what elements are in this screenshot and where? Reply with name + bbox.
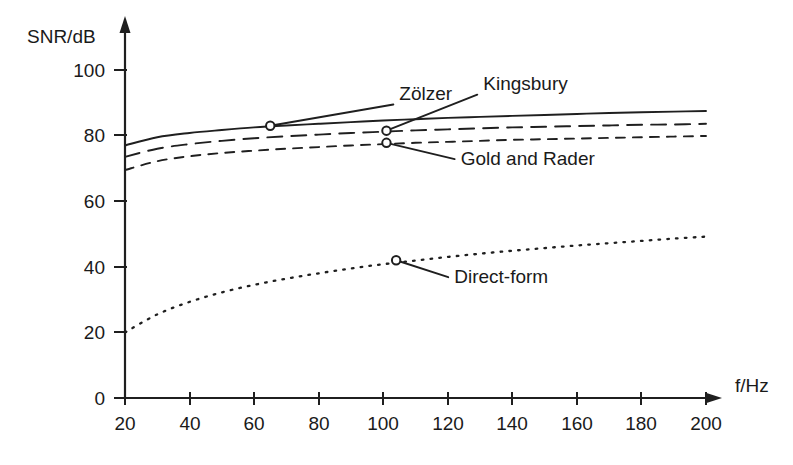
y-tick-label-40: 40 [84, 257, 105, 278]
y-tick-label-80: 80 [84, 125, 105, 146]
y-axis [120, 16, 131, 398]
x-tick-label-200: 200 [690, 413, 722, 434]
y-tick-label-60: 60 [84, 191, 105, 212]
series-layer [125, 111, 706, 332]
data-marker-kingsbury [382, 126, 390, 134]
x-tick-label-160: 160 [561, 413, 593, 434]
y-tick-label-100: 100 [73, 60, 105, 81]
leader-line-gold-and-rader [386, 143, 454, 159]
y-axis-arrowhead [120, 16, 131, 33]
data-marker-gold-and-rader [382, 139, 390, 147]
x-axis-title: f/Hz [735, 375, 769, 396]
y-axis-title: SNR/dB [27, 26, 96, 47]
series-label-gold-and-rader: Gold and Rader [461, 148, 596, 169]
x-tick-label-140: 140 [496, 413, 528, 434]
x-tick-label-60: 60 [243, 413, 264, 434]
x-tick-label-100: 100 [367, 413, 399, 434]
x-tick-label-80: 80 [308, 413, 329, 434]
x-axis-arrowhead [705, 393, 722, 404]
series-line-direct-form [125, 237, 706, 333]
data-marker-z-lzer [266, 122, 274, 130]
x-axis [125, 393, 722, 404]
series-line-z-lzer [125, 111, 706, 145]
y-tick-label-20: 20 [84, 322, 105, 343]
series-label-kingsbury: Kingsbury [483, 73, 568, 94]
x-tick-label-120: 120 [432, 413, 464, 434]
x-tick-label-40: 40 [179, 413, 200, 434]
x-tick-label-20: 20 [114, 413, 135, 434]
chart-canvas: 100 80 60 40 20 0 SNR/dB 20 40 60 80 100… [0, 0, 793, 465]
x-tick-label-180: 180 [625, 413, 657, 434]
leader-line-direct-form [396, 260, 448, 277]
series-line-kingsbury [125, 124, 706, 157]
annotation-layer: ZölzerKingsburyGold and RaderDirect-form [266, 73, 595, 288]
y-tick-label-0: 0 [94, 388, 105, 409]
series-label-z-lzer: Zölzer [399, 83, 452, 104]
series-line-gold-and-rader [125, 136, 706, 170]
chart-figure: 100 80 60 40 20 0 SNR/dB 20 40 60 80 100… [0, 0, 793, 465]
series-label-direct-form: Direct-form [454, 266, 548, 287]
data-marker-direct-form [392, 256, 400, 264]
